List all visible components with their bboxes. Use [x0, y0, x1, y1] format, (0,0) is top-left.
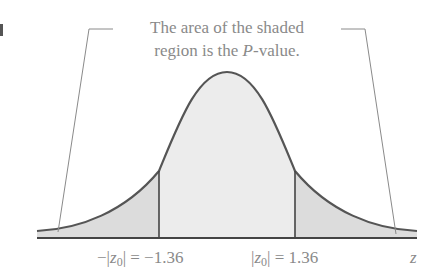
normal-distribution-diagram: The area of the shaded region is the P-v… [0, 0, 446, 273]
caption-line-2: region is the P-value. [154, 41, 299, 60]
caption-line-1: The area of the shaded [150, 18, 304, 37]
center-region [159, 72, 295, 238]
left-tail-region [37, 171, 159, 238]
right-callout-line [341, 29, 396, 234]
right-critical-label: |z0| = 1.36 [251, 248, 318, 269]
axis-variable-label: z [409, 248, 417, 267]
left-callout-line [58, 29, 113, 232]
right-tail-region [295, 171, 417, 238]
left-critical-label: −|z0| = −1.36 [97, 248, 183, 269]
